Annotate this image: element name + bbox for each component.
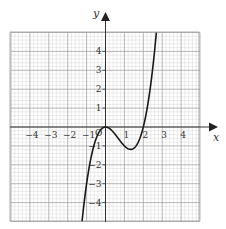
y-tick-label: 2 bbox=[96, 84, 102, 94]
y-axis-label: y bbox=[92, 7, 100, 20]
x-tick-label: 4 bbox=[180, 130, 186, 140]
x-tick-label: −2 bbox=[63, 130, 76, 140]
cubic-graph: x y O −4−3−2−11234 4321−1−2−3−4 bbox=[0, 0, 226, 229]
y-axis-arrow-icon bbox=[101, 12, 110, 21]
y-tick-label: 3 bbox=[96, 65, 102, 75]
y-tick-label: −4 bbox=[88, 198, 102, 208]
x-tick-label: −4 bbox=[25, 130, 39, 140]
x-axis-label: x bbox=[213, 131, 220, 144]
x-tick-label: −1 bbox=[82, 130, 95, 140]
x-tick-label: −3 bbox=[44, 130, 58, 140]
x-tick-label: 1 bbox=[124, 130, 130, 140]
y-tick-label: −3 bbox=[88, 179, 102, 189]
x-tick-label: 2 bbox=[142, 130, 148, 140]
y-tick-label: 1 bbox=[96, 103, 102, 113]
x-tick-label: 3 bbox=[161, 130, 167, 140]
y-tick-label: 4 bbox=[96, 46, 102, 56]
